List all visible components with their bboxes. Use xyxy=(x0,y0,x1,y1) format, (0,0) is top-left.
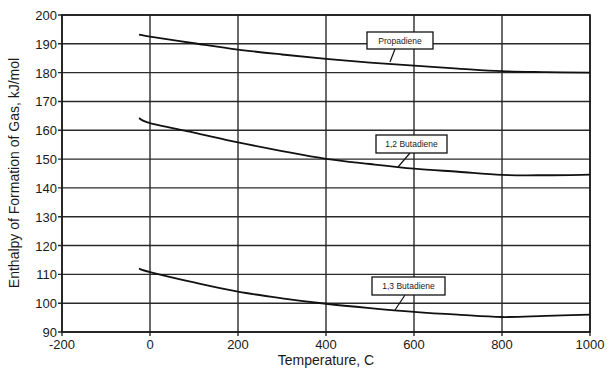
x-tick-label: 1000 xyxy=(576,337,605,352)
x-axis-title: Temperature, C xyxy=(278,352,374,368)
series-label: 1,2 Butadiene xyxy=(385,139,438,149)
y-tick-label: 150 xyxy=(35,152,57,167)
y-tick-label: 200 xyxy=(35,8,57,23)
y-tick-label: 180 xyxy=(35,66,57,81)
series-label: 1,3 Butadiene xyxy=(382,281,435,291)
x-tick-label: -200 xyxy=(49,337,75,352)
y-tick-label: 140 xyxy=(35,181,57,196)
x-tick-label: 600 xyxy=(403,337,425,352)
y-tick-label: 170 xyxy=(35,94,57,109)
y-tick-label: 120 xyxy=(35,239,57,254)
label-leader-line xyxy=(390,49,395,62)
x-tick-label: 800 xyxy=(491,337,513,352)
series-label: Propadiene xyxy=(378,36,422,46)
line-chart: 90100110120130140150160170180190200 -200… xyxy=(0,0,611,373)
series-line xyxy=(139,269,590,317)
series-line xyxy=(139,118,590,175)
x-tick-label: 0 xyxy=(146,337,153,352)
x-tick-label: 200 xyxy=(227,337,249,352)
y-tick-label: 100 xyxy=(35,296,57,311)
label-leader-line xyxy=(398,153,410,167)
x-tick-label: 400 xyxy=(315,337,337,352)
y-tick-label: 110 xyxy=(36,267,57,282)
x-axis-ticks: -20002004006008001000 xyxy=(49,337,604,352)
y-tick-label: 190 xyxy=(35,37,57,52)
y-axis-ticks: 90100110120130140150160170180190200 xyxy=(35,8,57,340)
series-line xyxy=(139,35,590,73)
y-tick-label: 160 xyxy=(35,123,57,138)
y-tick-label: 130 xyxy=(35,210,57,225)
y-axis-title: Enthalpy of Formation of Gas, kJ/mol xyxy=(6,58,22,288)
